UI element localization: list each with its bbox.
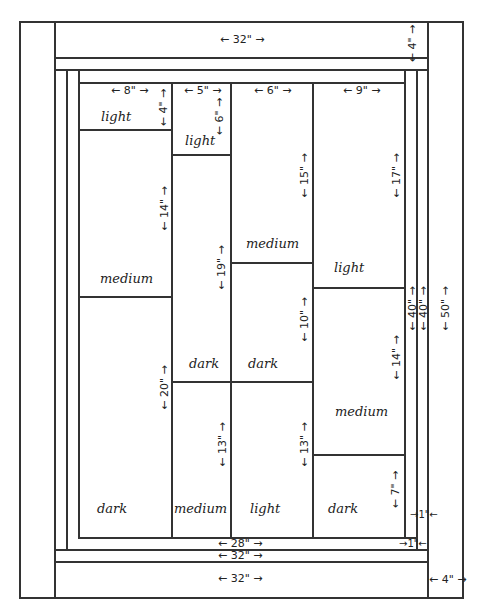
col3-divider-1: [230, 262, 313, 264]
top-border-bottom-line: [54, 57, 428, 59]
col1-block3-shade: dark: [97, 502, 127, 515]
col1-block2-shade: medium: [100, 272, 153, 285]
col2-block3-shade: medium: [174, 502, 227, 515]
left-strip-line-1: [66, 69, 68, 550]
inner-bottom-28-label: ← 28" →: [218, 538, 262, 549]
col4-divider-1: [312, 287, 405, 289]
col4-block2-height: ← 14" →: [391, 335, 402, 379]
col4-block2-shade: medium: [335, 405, 388, 418]
bottom-border-width-label: ← 32" →: [218, 573, 262, 584]
top-border-height-label: ← 4" →: [407, 25, 418, 63]
left-border-line: [54, 21, 56, 598]
outer-top-line: [20, 21, 464, 23]
col2-block2-shade: dark: [189, 357, 219, 370]
col4-divider-2: [312, 454, 405, 456]
col1-block1-height: ← 4" →: [158, 89, 169, 127]
col1-width-label: ← 8" →: [111, 85, 149, 96]
col3-block2-height: ← 10" →: [299, 297, 310, 341]
col1-block1-shade: light: [101, 110, 131, 123]
column-divider-2: [230, 82, 232, 538]
col3-width-label: ← 6" →: [254, 85, 292, 96]
col4-block3-height: ← 7" →: [390, 471, 401, 509]
col4-width-label: ← 9" →: [343, 85, 381, 96]
col1-block2-height: ← 14" →: [159, 186, 170, 230]
col4-block1-shade: light: [334, 261, 364, 274]
col1-divider-2: [79, 296, 172, 298]
column-divider-1: [171, 82, 173, 538]
col3-block2-shade: dark: [248, 357, 278, 370]
col3-block1-height: ← 15" →: [299, 153, 310, 197]
col4-block1-height: ← 17" →: [391, 153, 402, 197]
outer-left-line: [19, 21, 21, 598]
outer-right-line: [462, 23, 464, 598]
col1-block3-height: ← 20" →: [159, 365, 170, 409]
col3-block3-shade: light: [250, 502, 280, 515]
column-divider-3: [312, 82, 314, 538]
inner-bottom-32-label: ← 32" →: [218, 550, 262, 561]
col2-divider-2: [171, 381, 313, 383]
strip-1in-label-a: →1"←: [410, 510, 438, 520]
col2-block2-height: ← 19" →: [216, 245, 227, 289]
col1-divider-1: [79, 129, 172, 131]
right-border-width-label: ← 4" →: [429, 574, 467, 585]
col2-block1-shade: light: [185, 134, 215, 147]
total-height-50-label: ← 50" →: [440, 286, 451, 330]
strip-height-40b-label: ← 40" →: [418, 286, 429, 330]
col2-width-label: ← 5" →: [184, 85, 222, 96]
col4-block3-shade: dark: [328, 502, 358, 515]
top-strip-line: [54, 69, 428, 71]
outer-bottom-line: [19, 597, 464, 599]
col2-block1-height: ← 6" →: [214, 98, 225, 136]
col3-block3-height: ← 13" →: [299, 422, 310, 466]
col3-block1-shade: medium: [246, 237, 299, 250]
col2-divider-1: [171, 154, 231, 156]
top-border-width-label: ← 32" →: [220, 34, 264, 45]
strip-1in-label-b: →1"←: [399, 539, 427, 549]
left-strip-line-2: [78, 69, 80, 538]
col2-block3-height: ← 13" →: [217, 422, 228, 466]
